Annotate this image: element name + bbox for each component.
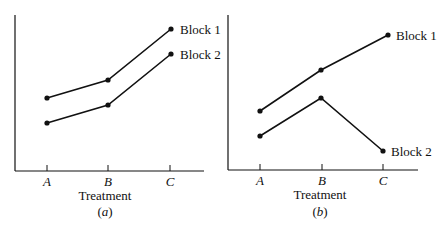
tick-label-a: A bbox=[255, 173, 264, 188]
panel-label: (a) bbox=[97, 204, 112, 219]
series-label-block-2: Block 2 bbox=[391, 144, 432, 159]
tick-label-a: A bbox=[42, 174, 51, 189]
panel-label: (b) bbox=[312, 204, 327, 219]
x-axis-title: Treatment bbox=[79, 188, 132, 203]
x-axis-title: Treatment bbox=[294, 187, 347, 202]
tick-label-b: B bbox=[104, 174, 112, 189]
panel-a: A B C Treatment (a) Block 1 Block 2 bbox=[15, 15, 221, 219]
series-label-block-1: Block 1 bbox=[180, 22, 221, 37]
series-label-block-1: Block 1 bbox=[396, 28, 437, 43]
tick-label-b: B bbox=[318, 173, 326, 188]
series-block-2 bbox=[260, 98, 383, 151]
interaction-plots: A B C Treatment (a) Block 1 Block 2 A B … bbox=[0, 0, 440, 229]
series-block-1 bbox=[47, 29, 171, 98]
tick-label-c: C bbox=[166, 174, 175, 189]
panel-b: A B C Treatment (b) Block 1 Block 2 bbox=[228, 15, 437, 219]
series-label-block-2: Block 2 bbox=[180, 47, 221, 62]
series-block-2 bbox=[47, 54, 171, 123]
tick-label-c: C bbox=[379, 173, 388, 188]
